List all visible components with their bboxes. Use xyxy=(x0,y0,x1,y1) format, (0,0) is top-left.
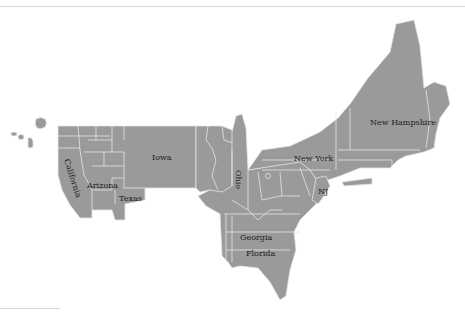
label-ohio: Ohio xyxy=(234,170,243,189)
label-georgia: Georgia xyxy=(240,233,272,242)
label-arizona: Arizona xyxy=(86,181,118,190)
label-new-hampshire: New Hampshire xyxy=(370,118,436,127)
label-new-york: New York xyxy=(294,154,333,163)
western-states xyxy=(58,126,196,220)
label-texas: Texas xyxy=(119,194,142,203)
cartogram-map: California Arizona Texas Iowa Ohio New Y… xyxy=(0,0,465,313)
label-nj: NJ xyxy=(318,187,328,196)
hawaii-islands xyxy=(11,118,47,149)
label-florida: Florida xyxy=(246,249,275,258)
northeast-states xyxy=(248,20,450,196)
label-iowa: Iowa xyxy=(152,153,172,162)
